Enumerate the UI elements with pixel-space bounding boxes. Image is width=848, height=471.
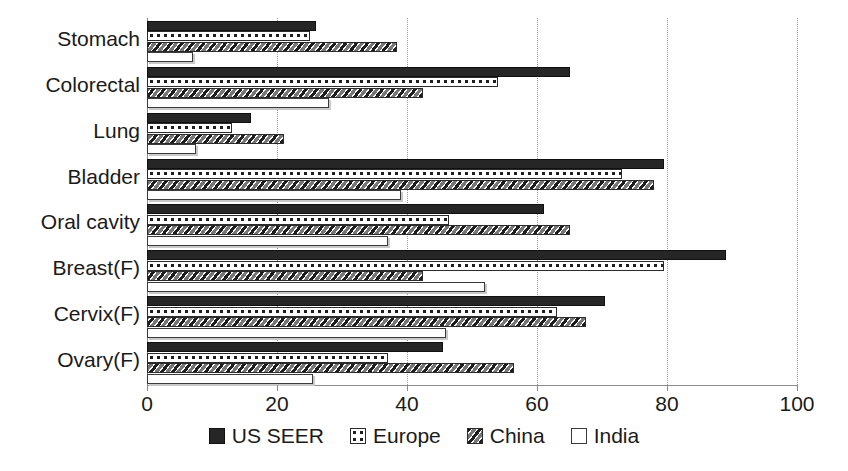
bar-china <box>147 317 586 327</box>
diagonal-hatch-swatch <box>467 428 483 444</box>
category-label: Breast(F) <box>52 256 140 280</box>
category-label: Ovary(F) <box>57 348 140 372</box>
category-label: Bladder <box>68 165 140 189</box>
bar-us-seer <box>147 67 570 77</box>
bar-group <box>147 339 797 385</box>
cancer-survival-bar-chart: StomachColorectalLungBladderOral cavityB… <box>0 0 848 471</box>
bar-china <box>147 225 570 235</box>
bar-group <box>147 293 797 339</box>
x-tick-100 <box>797 385 798 391</box>
x-tick-60 <box>537 385 538 391</box>
x-tick-20 <box>277 385 278 391</box>
bar-europe <box>147 169 622 179</box>
x-axis-line <box>147 385 798 386</box>
legend-item-china: China <box>467 424 545 448</box>
dotted-circles-swatch <box>350 428 366 444</box>
bar-europe <box>147 353 388 363</box>
bar-group <box>147 64 797 110</box>
bar-us-seer <box>147 21 316 31</box>
bar-india <box>147 374 313 384</box>
category-label: Lung <box>93 119 140 143</box>
bar-china <box>147 180 654 190</box>
x-tick-80 <box>667 385 668 391</box>
bar-group <box>147 18 797 64</box>
legend-label: India <box>594 424 640 448</box>
bar-europe <box>147 123 232 133</box>
solid-black-swatch <box>209 428 225 444</box>
bar-india <box>147 98 329 108</box>
bar-china <box>147 42 397 52</box>
x-tick-label: 100 <box>779 392 814 416</box>
legend-label: China <box>490 424 545 448</box>
x-tick-label: 60 <box>525 392 548 416</box>
legend-item-us-seer: US SEER <box>209 424 324 448</box>
x-tick-40 <box>407 385 408 391</box>
category-label: Oral cavity <box>41 210 140 234</box>
bar-india <box>147 144 196 154</box>
bar-us-seer <box>147 250 726 260</box>
legend-item-india: India <box>571 424 640 448</box>
x-tick-label: 0 <box>141 392 153 416</box>
bar-us-seer <box>147 296 605 306</box>
chart-legend: US SEEREuropeChinaIndia <box>0 424 848 448</box>
bar-group <box>147 247 797 293</box>
bar-india <box>147 282 485 292</box>
bar-india <box>147 328 446 338</box>
category-label: Colorectal <box>45 73 140 97</box>
gridline-100 <box>797 18 799 385</box>
bar-india <box>147 52 193 62</box>
bar-india <box>147 236 388 246</box>
bar-europe <box>147 77 498 87</box>
x-tick-label: 20 <box>265 392 288 416</box>
bar-china <box>147 88 423 98</box>
category-axis-labels: StomachColorectalLungBladderOral cavityB… <box>0 18 140 385</box>
bar-india <box>147 190 401 200</box>
bar-europe <box>147 31 310 41</box>
bar-europe <box>147 307 557 317</box>
plot-area <box>147 18 797 385</box>
bar-group <box>147 156 797 202</box>
bar-us-seer <box>147 113 251 123</box>
x-tick-label: 40 <box>395 392 418 416</box>
bar-us-seer <box>147 159 664 169</box>
bar-europe <box>147 215 449 225</box>
legend-item-europe: Europe <box>350 424 441 448</box>
open-white-swatch <box>571 428 587 444</box>
bar-china <box>147 134 284 144</box>
category-label: Cervix(F) <box>54 302 140 326</box>
legend-label: Europe <box>373 424 441 448</box>
category-label: Stomach <box>57 27 140 51</box>
x-tick-label: 80 <box>655 392 678 416</box>
bar-group <box>147 110 797 156</box>
bar-us-seer <box>147 204 544 214</box>
bar-group <box>147 202 797 248</box>
x-tick-0 <box>147 385 148 391</box>
bar-china <box>147 363 514 373</box>
bar-china <box>147 271 423 281</box>
bar-europe <box>147 261 664 271</box>
bar-us-seer <box>147 342 443 352</box>
legend-label: US SEER <box>232 424 324 448</box>
